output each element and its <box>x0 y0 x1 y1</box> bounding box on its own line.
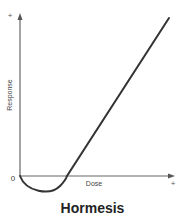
hormesis-chart: + + 0 Dose Response <box>0 0 185 222</box>
x-axis-end-label: + <box>171 179 176 188</box>
x-axis-label: Dose <box>86 180 102 187</box>
y-axis-label: Response <box>6 79 14 111</box>
chart-title: Hormesis <box>0 200 185 216</box>
origin-label: 0 <box>11 174 16 183</box>
x-axis-arrow-icon <box>168 174 175 179</box>
y-axis-end-label: + <box>8 11 13 20</box>
dose-response-curve <box>20 18 169 191</box>
y-axis-arrow-icon <box>18 13 23 20</box>
